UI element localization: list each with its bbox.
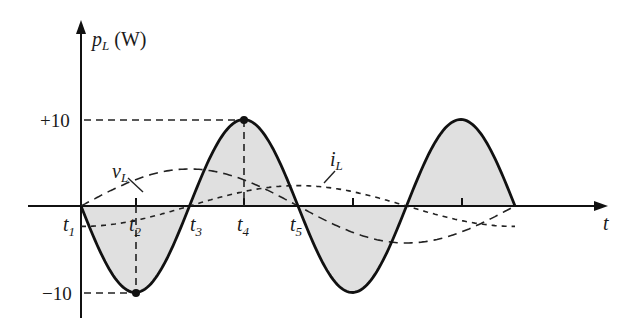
x-axis-arrow-icon [594, 201, 608, 211]
min-point-marker [132, 289, 140, 297]
iL-label: iL [330, 148, 343, 173]
max-point-marker [240, 116, 248, 124]
t5-label: t5 [290, 213, 303, 239]
t4-label: t4 [237, 213, 250, 239]
y-axis-label: pL (W) [90, 28, 146, 53]
power-waveform-diagram: pL (W) +10 −10 t vL iL t1 t2 t3 t4 t5 [0, 0, 625, 334]
plus10-label: +10 [40, 110, 70, 131]
iL-leader-line [324, 171, 335, 183]
t3-label: t3 [190, 213, 203, 239]
y-axis-arrow-icon [76, 20, 86, 34]
x-axis-label: t [603, 212, 609, 234]
minus10-label: −10 [42, 283, 72, 304]
vL-label: vL [112, 160, 128, 185]
t1-label: t1 [63, 213, 75, 239]
